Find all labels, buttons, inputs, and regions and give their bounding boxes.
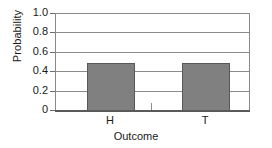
plot-area (55, 13, 250, 111)
probability-bar-chart: Probability 1.0 0.8 0.6 0.4 0.2 0 H T Ou… (0, 0, 272, 148)
gridline (56, 52, 249, 53)
x-tick-label-t: T (185, 113, 225, 127)
gridline (56, 32, 249, 33)
x-axis-mid-tick-mark (151, 103, 152, 110)
y-tick-label: 1.0 (20, 6, 48, 19)
x-axis-title: Outcome (0, 129, 272, 143)
y-tick-label: 0.2 (20, 84, 48, 97)
bar-h[interactable] (87, 63, 135, 110)
x-axis-line (55, 110, 250, 112)
y-tick-label: 0.4 (20, 64, 48, 77)
y-axis-tick-labels: 1.0 0.8 0.6 0.4 0.2 0 (20, 6, 48, 118)
x-tick-label-h: H (90, 113, 130, 127)
y-tick-label: 0 (20, 103, 48, 116)
y-tick-label: 0.6 (20, 45, 48, 58)
bar-t[interactable] (182, 63, 230, 110)
y-tick-label: 0.8 (20, 25, 48, 38)
